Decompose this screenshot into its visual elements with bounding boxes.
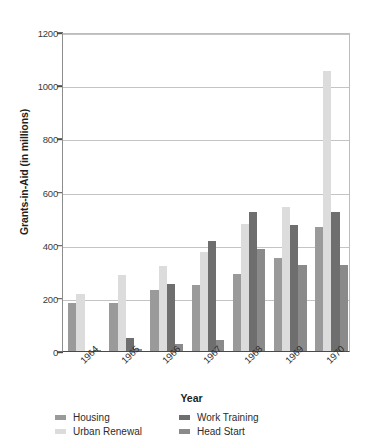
y-tick-label: 800 xyxy=(0,134,58,145)
bar xyxy=(282,207,290,351)
bar xyxy=(118,275,126,351)
bar-chart: Grants-in-Aid (in millions) 020040060080… xyxy=(0,0,383,448)
legend-label: Head Start xyxy=(197,426,245,437)
legend-item: Head Start xyxy=(179,424,314,438)
legend-item: Housing xyxy=(55,410,173,424)
legend-item: Urban Renewal xyxy=(55,424,173,438)
bar xyxy=(340,265,348,351)
bar xyxy=(274,258,282,351)
legend-swatch xyxy=(55,429,66,434)
plot-area xyxy=(62,33,350,352)
bar xyxy=(150,290,158,351)
legend-swatch xyxy=(179,415,190,420)
bar-group xyxy=(192,34,225,351)
bar-group xyxy=(68,34,101,351)
bar xyxy=(192,285,200,351)
y-tick-label: 1000 xyxy=(0,81,58,92)
bar xyxy=(200,252,208,351)
bar xyxy=(208,241,216,351)
chart-legend: HousingWork TrainingUrban RenewalHead St… xyxy=(55,410,355,438)
bar xyxy=(159,266,167,351)
x-axis-title: Year xyxy=(0,392,383,404)
y-tick-label: 1200 xyxy=(0,28,58,39)
bar xyxy=(331,212,339,351)
bar xyxy=(249,212,257,351)
legend-swatch xyxy=(55,415,66,420)
y-tick-label: 600 xyxy=(0,187,58,198)
bar xyxy=(167,284,175,351)
bar-group xyxy=(150,34,183,351)
bar xyxy=(241,224,249,351)
legend-label: Work Training xyxy=(197,412,259,423)
legend-label: Housing xyxy=(73,412,110,423)
bar xyxy=(257,249,265,351)
bar xyxy=(109,303,117,351)
y-tick-label: 400 xyxy=(0,240,58,251)
bar-group xyxy=(233,34,266,351)
bar xyxy=(315,227,323,351)
bar-group xyxy=(315,34,348,351)
y-tick-label: 200 xyxy=(0,293,58,304)
bar xyxy=(323,71,331,351)
bar xyxy=(233,274,241,351)
bar-group xyxy=(109,34,142,351)
bar xyxy=(290,225,298,351)
y-tick-label: 0 xyxy=(0,347,58,358)
legend-swatch xyxy=(179,429,190,434)
bar xyxy=(298,265,306,351)
legend-item: Work Training xyxy=(179,410,314,424)
bar xyxy=(68,303,76,351)
legend-label: Urban Renewal xyxy=(73,426,142,437)
bar xyxy=(76,294,84,351)
bar-group xyxy=(274,34,307,351)
